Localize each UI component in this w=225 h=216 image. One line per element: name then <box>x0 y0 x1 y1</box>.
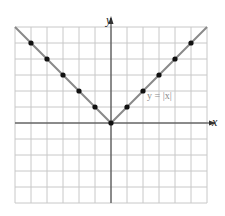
axes <box>15 16 216 203</box>
y-axis-label: y <box>106 13 111 28</box>
function-label: y = |x| <box>147 90 172 101</box>
graph <box>0 0 225 216</box>
x-axis-label: x <box>212 115 217 130</box>
